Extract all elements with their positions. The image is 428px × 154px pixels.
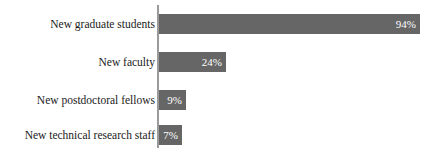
bar-value-label: 24% — [202, 56, 226, 68]
bar[interactable]: 94% — [159, 14, 420, 34]
bar-chart: New graduate students 94% New faculty 24… — [0, 0, 428, 154]
bar[interactable]: 7% — [159, 125, 182, 145]
bar-value-label: 9% — [167, 94, 186, 106]
category-label: New postdoctoral fellows — [37, 90, 155, 110]
bar-row: New faculty 24% — [0, 52, 428, 72]
bar[interactable]: 24% — [159, 52, 226, 72]
category-label: New graduate students — [50, 14, 155, 34]
category-label: New technical research staff — [25, 125, 155, 145]
bar-track: 7% — [159, 125, 182, 145]
bar-row: New postdoctoral fellows 9% — [0, 90, 428, 110]
plot-area: New graduate students 94% New faculty 24… — [0, 0, 428, 154]
category-label: New faculty — [98, 52, 155, 72]
bar-track: 9% — [159, 90, 186, 110]
bar[interactable]: 9% — [159, 90, 186, 110]
bar-value-label: 7% — [163, 129, 182, 141]
bar-row: New technical research staff 7% — [0, 125, 428, 145]
bar-track: 24% — [159, 52, 226, 72]
bar-value-label: 94% — [396, 18, 420, 30]
bar-track: 94% — [159, 14, 420, 34]
bar-row: New graduate students 94% — [0, 14, 428, 34]
